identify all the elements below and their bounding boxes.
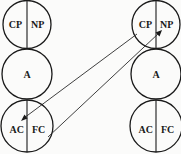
right-fc-label: FC (161, 124, 174, 135)
left-top-node: CP NP (3, 1, 51, 49)
left-fc-label: FC (32, 124, 45, 135)
connection-fc-to-np (48, 30, 162, 137)
left-bottom-node: AC FC (1, 100, 53, 152)
right-top-node: CP NP (132, 1, 180, 49)
right-ac-label: AC (139, 124, 153, 135)
left-cp-label: CP (9, 19, 22, 30)
left-middle-node: A (2, 49, 52, 99)
left-column: CP NP A AC FC (1, 1, 53, 153)
right-bottom-node: AC FC (130, 100, 181, 152)
right-cp-label: CP (139, 19, 152, 30)
diagram-canvas: CP NP A AC FC CP NP A AC FC (0, 0, 181, 154)
left-ac-label: AC (10, 124, 24, 135)
right-a-label: A (152, 69, 160, 80)
right-column: CP NP A AC FC (130, 1, 181, 153)
left-np-label: NP (31, 19, 44, 30)
right-np-label: NP (160, 19, 173, 30)
left-a-label: A (23, 69, 31, 80)
right-middle-node: A (131, 49, 181, 99)
